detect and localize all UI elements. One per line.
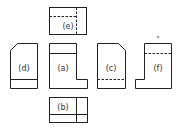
label-b: (b): [57, 103, 68, 112]
label-e: (e): [62, 22, 73, 31]
label-d: (d): [18, 64, 29, 73]
label-f: (f): [153, 64, 162, 73]
label-c: (c): [106, 64, 117, 73]
label-a: (a): [57, 64, 68, 73]
marker-asterisk: *: [157, 34, 160, 41]
projection-diagram: (e) (a) (b) (d) (c) (f) *: [0, 0, 178, 130]
